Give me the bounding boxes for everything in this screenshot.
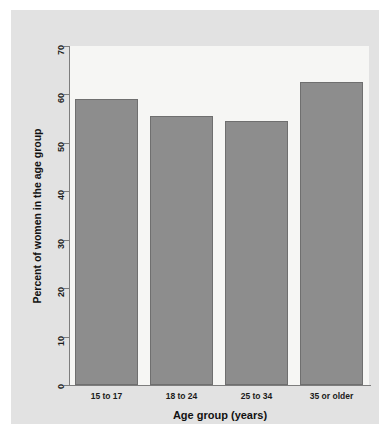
bar xyxy=(150,116,213,385)
figure-panel: 010203040506070 Percent of women in the … xyxy=(11,10,379,424)
y-axis-title-label: Percent of women in the age group xyxy=(31,128,43,303)
bar xyxy=(75,99,138,385)
y-tick-label: 70 xyxy=(56,45,66,55)
y-tick-label: 20 xyxy=(56,287,66,297)
x-axis-line xyxy=(69,385,371,386)
bar xyxy=(225,121,288,385)
bar xyxy=(300,82,363,385)
x-tick-label: 18 to 24 xyxy=(144,391,219,401)
y-tick-label: 0 xyxy=(56,384,66,389)
y-tick-label: 60 xyxy=(56,93,66,103)
x-tick-label: 25 to 34 xyxy=(219,391,294,401)
y-tick-label: 10 xyxy=(56,336,66,346)
y-tick-label: 30 xyxy=(56,239,66,249)
y-tick-label: 50 xyxy=(56,142,66,152)
y-axis-title: Percent of women in the age group xyxy=(29,46,45,386)
x-axis-title: Age group (years) xyxy=(69,409,371,421)
x-tick-label: 15 to 17 xyxy=(69,391,144,401)
x-tick-label: 35 or older xyxy=(294,391,369,401)
y-axis-line xyxy=(69,46,70,386)
y-tick-label: 40 xyxy=(56,190,66,200)
